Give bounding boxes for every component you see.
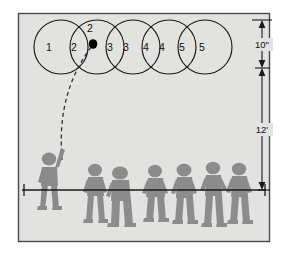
position-label-4b: 4 <box>159 41 165 53</box>
position-label-5a: 5 <box>179 41 185 53</box>
position-label-1: 1 <box>46 41 52 53</box>
dimension-label-lower: 12' <box>256 124 269 135</box>
dimension-label-upper: 10" <box>255 39 269 50</box>
position-label-3b: 3 <box>123 41 129 53</box>
position-label-4a: 4 <box>143 41 149 53</box>
basketball-marker <box>89 39 98 49</box>
position-label-5b: 5 <box>199 41 205 53</box>
figure-root: 1 2 2 3 3 4 4 5 5 10" <box>0 0 288 255</box>
position-label-3a: 3 <box>107 41 113 53</box>
position-label-2: 2 <box>71 41 77 53</box>
position-label-ball: 2 <box>87 22 93 34</box>
trajectory-diagram: 1 2 2 3 3 4 4 5 5 10" <box>0 0 288 255</box>
